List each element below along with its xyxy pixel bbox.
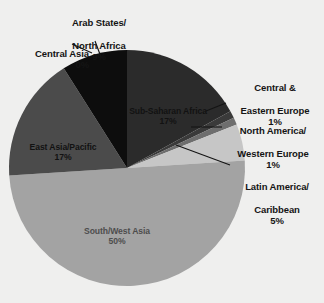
callout-north-america-line1: North America/ (240, 125, 306, 136)
slice-label-south-west-asia-percent: 50% (109, 236, 126, 246)
pie-slices-group (9, 50, 245, 286)
callout-latin-america-line1: Latin America/ (245, 181, 309, 192)
callout-north-america-line2: Western Europe (237, 148, 308, 159)
callout-latin-america-caribbean: Latin America/ Caribbean 5% (232, 169, 322, 238)
slice-label-east-asia-pacific: East Asia/Pacific 17% (17, 131, 109, 163)
pie-chart-figure: Central Asia 0% Arab States/ North Afric… (0, 0, 324, 303)
callout-arab-states-line1: Arab States/ (72, 17, 126, 28)
slice-label-east-asia-pacific-name: East Asia/Pacific (30, 142, 97, 152)
slice-label-south-west-asia: South/West Asia 50% (62, 215, 172, 247)
callout-arab-states-line2: North Africa (72, 40, 125, 51)
slice-label-sub-saharan-africa-percent: 17% (160, 116, 177, 126)
slice-label-sub-saharan-africa-name: Sub-Saharan Africa (129, 106, 207, 116)
callout-arab-states-north-africa: Arab States/ North Africa 9% (48, 5, 150, 74)
slice-label-east-asia-pacific-percent: 17% (55, 152, 72, 162)
callout-latin-america-line2: Caribbean (254, 204, 300, 215)
callout-latin-america-percent: 5% (232, 215, 322, 227)
slice-label-sub-saharan-africa: Sub-Saharan Africa 17% (121, 95, 215, 127)
callout-central-eastern-europe-line1: Central & (254, 82, 295, 93)
callout-arab-states-percent: 9% (48, 51, 150, 63)
slice-label-south-west-asia-name: South/West Asia (84, 226, 150, 236)
